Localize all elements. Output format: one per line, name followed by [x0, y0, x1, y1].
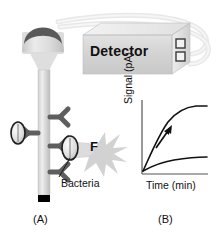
figure-container: Detector F Bacteria (A) (B) Time (min) S… [0, 0, 220, 235]
free-bacterium-complex [11, 122, 38, 144]
figure-illustration [0, 0, 220, 235]
panel-b-caption: (B) [158, 214, 173, 225]
bacterium-oval [62, 136, 78, 160]
panel-a-caption: (A) [33, 214, 48, 225]
fluorescence-label: F [90, 140, 98, 153]
optical-fiber [38, 70, 50, 202]
probe-head [22, 28, 64, 75]
detector-label: Detector [90, 44, 148, 58]
bacteria-label: Bacteria [61, 178, 100, 189]
chart-x-axis-label: Time (min) [146, 180, 196, 191]
chart-series [143, 106, 207, 171]
fiber-tip-band [38, 195, 50, 202]
series-control-sample-response [143, 157, 207, 171]
series-positive-sample-response [143, 106, 207, 171]
chart-axes [142, 100, 208, 174]
